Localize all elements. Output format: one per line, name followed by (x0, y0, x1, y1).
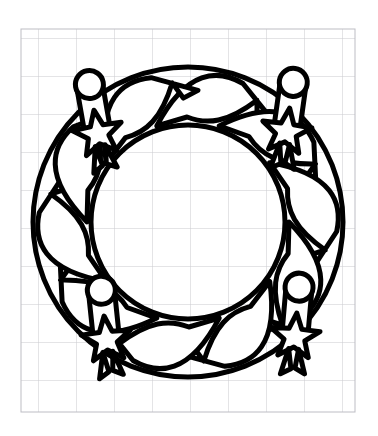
candle-flame-knob (277, 67, 309, 99)
artboard-canvas (0, 0, 378, 436)
candle-flame-knob (86, 275, 117, 306)
candle-flame-knob (73, 68, 105, 100)
candle-flame-knob (284, 272, 314, 302)
advent-wreath-illustration (0, 0, 378, 436)
